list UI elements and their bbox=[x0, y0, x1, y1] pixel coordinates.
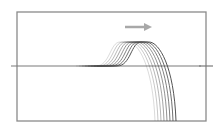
pulse-curve bbox=[97, 42, 176, 121]
pulse-curve bbox=[94, 42, 173, 121]
pulse-diagram bbox=[0, 0, 224, 127]
pulse-curves bbox=[76, 42, 176, 121]
right-arrow-icon bbox=[125, 23, 152, 31]
